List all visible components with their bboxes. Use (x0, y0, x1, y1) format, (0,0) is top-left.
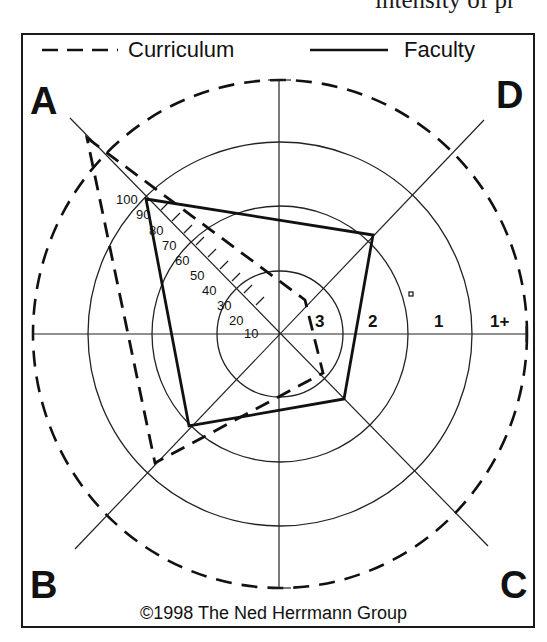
small-square-marker (409, 292, 413, 296)
tick-label-20: 20 (229, 313, 243, 328)
tick-label-100: 100 (116, 192, 138, 207)
legend-curriculum-label: Curriculum (128, 37, 234, 63)
tick-label-80: 80 (149, 223, 163, 238)
ring-label-2: 2 (368, 312, 377, 332)
series-curriculum (87, 138, 323, 463)
tick-label-50: 50 (190, 268, 204, 283)
radar-chart (0, 0, 547, 642)
copyright-notice: ©1998 The Ned Herrmann Group (0, 603, 547, 624)
tick-label-90: 90 (136, 207, 150, 222)
quadrant-label-b: B (30, 566, 57, 604)
ring-label-3: 3 (315, 312, 324, 332)
quadrant-label-a: A (30, 82, 57, 120)
quadrant-label-d: D (496, 76, 523, 114)
tick-label-60: 60 (175, 253, 189, 268)
legend-faculty-label: Faculty (404, 37, 475, 63)
grid-axes (33, 80, 526, 588)
tick-label-40: 40 (202, 283, 216, 298)
ring-label-1: 1 (434, 312, 443, 332)
tick-label-70: 70 (162, 238, 176, 253)
tick-label-30: 30 (217, 298, 231, 313)
ring-label-1plus: 1+ (490, 312, 509, 332)
quadrant-label-c: C (500, 566, 527, 604)
tick-label-10: 10 (244, 326, 258, 341)
